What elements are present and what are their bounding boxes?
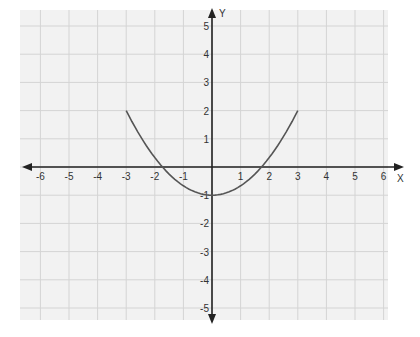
x-tick-label: 5 bbox=[352, 171, 358, 182]
y-tick-label: -4 bbox=[200, 275, 209, 286]
y-tick-label: 2 bbox=[203, 106, 209, 117]
x-axis-label: X bbox=[397, 173, 404, 184]
x-tick-label: 6 bbox=[381, 171, 387, 182]
x-tick-label: -3 bbox=[122, 171, 131, 182]
x-tick-label: 1 bbox=[238, 171, 244, 182]
x-tick-label: 2 bbox=[266, 171, 272, 182]
x-axis-right-arrow-icon bbox=[394, 163, 404, 171]
y-tick-label: 4 bbox=[203, 49, 209, 60]
y-tick-label: -3 bbox=[200, 247, 209, 258]
x-tick-label: -4 bbox=[93, 171, 102, 182]
y-axis-label: Y bbox=[219, 8, 226, 19]
y-tick-label: -2 bbox=[200, 218, 209, 229]
y-tick-label: 1 bbox=[203, 134, 209, 145]
y-tick-label: 5 bbox=[203, 21, 209, 32]
x-tick-label: -1 bbox=[179, 171, 188, 182]
y-tick-label: -5 bbox=[200, 303, 209, 314]
x-tick-label: 3 bbox=[295, 171, 301, 182]
coordinate-plane: -6-5-4-3-2-1123456-5-4-3-2-112345 X Y bbox=[0, 0, 420, 337]
x-tick-label: 4 bbox=[324, 171, 330, 182]
x-tick-label: -5 bbox=[65, 171, 74, 182]
y-tick-label: 3 bbox=[203, 77, 209, 88]
x-tick-label: -6 bbox=[36, 171, 45, 182]
x-tick-label: -2 bbox=[150, 171, 159, 182]
